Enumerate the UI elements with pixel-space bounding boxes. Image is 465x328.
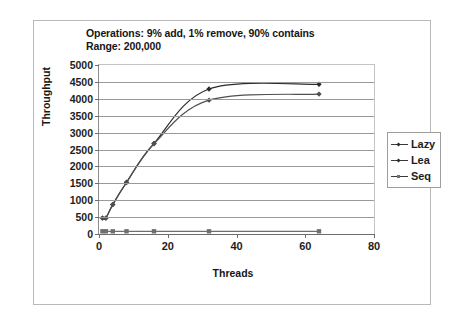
data-point-marker xyxy=(206,86,211,91)
y-axis-tick xyxy=(95,183,99,184)
y-axis-label: 1500 xyxy=(70,177,93,189)
y-axis-title: Throughput xyxy=(40,67,52,126)
legend-label: Lazy xyxy=(411,138,435,150)
y-axis-tick xyxy=(95,116,99,117)
legend-marker-icon xyxy=(391,139,408,149)
legend-label: Seq xyxy=(411,170,431,182)
series-line xyxy=(102,83,319,219)
x-axis-tick xyxy=(168,234,169,238)
series-seq xyxy=(100,229,321,233)
y-axis-label: 2500 xyxy=(70,144,93,156)
data-point-marker xyxy=(152,229,156,233)
data-point-marker xyxy=(317,229,321,233)
y-axis-tick xyxy=(95,217,99,218)
gridline-horizontal xyxy=(99,200,374,201)
gridline-horizontal xyxy=(99,166,374,167)
y-axis-label: 3000 xyxy=(70,127,93,139)
gridline-horizontal xyxy=(99,133,374,134)
y-axis-label: 2000 xyxy=(70,160,93,172)
chart-title-line-1: Operations: 9% add, 1% remove, 90% conta… xyxy=(86,27,416,40)
data-point-marker xyxy=(207,229,211,233)
x-axis-title: Threads xyxy=(34,267,432,279)
gridline-horizontal xyxy=(99,99,374,100)
x-axis-label: 0 xyxy=(96,240,102,252)
chart-title-line-2: Range: 200,000 xyxy=(86,40,416,53)
x-axis-tick xyxy=(237,234,238,238)
legend-marker-icon xyxy=(391,171,408,181)
x-axis-label: 60 xyxy=(299,240,311,252)
x-axis-tick xyxy=(374,234,375,238)
x-axis-label: 80 xyxy=(368,240,380,252)
gridline-horizontal xyxy=(99,217,374,218)
series-lea xyxy=(100,91,322,220)
gridline-horizontal xyxy=(99,183,374,184)
data-point-marker xyxy=(104,229,108,233)
y-axis-label: 4000 xyxy=(70,93,93,105)
x-axis-label: 20 xyxy=(162,240,174,252)
y-axis-label: 0 xyxy=(87,228,93,240)
y-axis-tick xyxy=(95,150,99,151)
y-axis-tick xyxy=(95,166,99,167)
x-axis-label: 40 xyxy=(230,240,242,252)
x-axis-tick xyxy=(99,234,100,238)
chart-figure: Operations: 9% add, 1% remove, 90% conta… xyxy=(33,20,431,305)
gridline-horizontal xyxy=(99,82,374,83)
chart-legend: LazyLeaSeq xyxy=(387,132,441,188)
data-point-marker xyxy=(124,229,128,233)
legend-marker-icon xyxy=(391,155,408,165)
gridline-horizontal xyxy=(99,150,374,151)
legend-item-seq[interactable]: Seq xyxy=(391,168,435,184)
legend-label: Lea xyxy=(411,154,430,166)
y-axis-label: 4500 xyxy=(70,76,93,88)
y-axis-tick xyxy=(95,82,99,83)
y-axis-tick xyxy=(95,133,99,134)
x-axis-tick xyxy=(305,234,306,238)
data-point-marker xyxy=(316,91,321,96)
y-axis-label: 3500 xyxy=(70,110,93,122)
plot-area: 0500100015002000250030003500400045005000… xyxy=(98,64,375,235)
chart-title: Operations: 9% add, 1% remove, 90% conta… xyxy=(86,27,416,53)
y-axis-label: 500 xyxy=(75,211,93,223)
y-axis-tick xyxy=(95,99,99,100)
gridline-horizontal xyxy=(99,116,374,117)
legend-item-lea[interactable]: Lea xyxy=(391,152,435,168)
data-point-marker xyxy=(110,202,115,207)
y-axis-tick xyxy=(95,65,99,66)
data-point-marker xyxy=(111,229,115,233)
y-axis-label: 5000 xyxy=(70,59,93,71)
legend-item-lazy[interactable]: Lazy xyxy=(391,136,435,152)
y-axis-tick xyxy=(95,200,99,201)
y-axis-label: 1000 xyxy=(70,194,93,206)
